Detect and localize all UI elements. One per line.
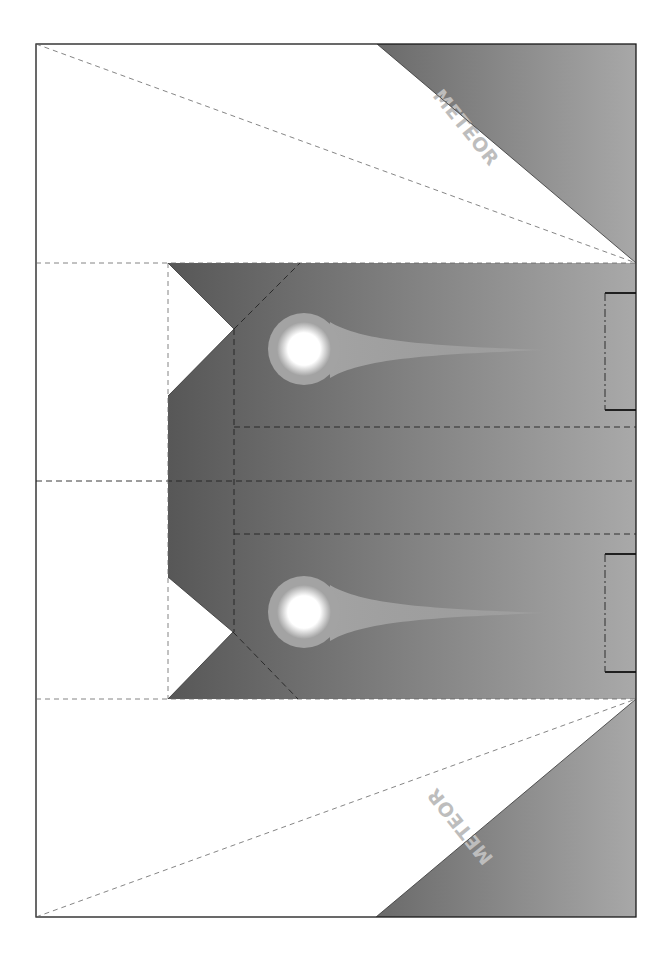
meteor-template-sheet: METEOR METEOR xyxy=(0,0,658,958)
